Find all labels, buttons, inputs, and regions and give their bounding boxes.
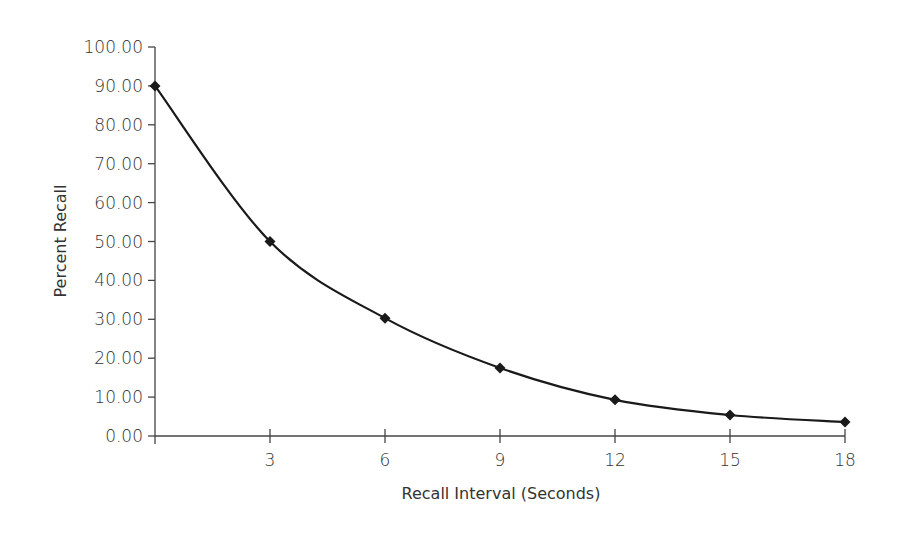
y-tick-label: 100.00 [84, 37, 143, 57]
y-tick-label: 10.00 [94, 387, 143, 407]
x-tick-label: 9 [495, 450, 506, 470]
y-tick-label: 90.00 [94, 76, 143, 96]
x-tick-label: 15 [719, 450, 741, 470]
x-tick-label: 18 [834, 450, 856, 470]
diamond-marker [840, 416, 851, 427]
y-tick-label: 20.00 [94, 348, 143, 368]
x-axis: 369121518 [155, 429, 856, 470]
y-tick-label: 80.00 [94, 115, 143, 135]
y-axis: 0.0010.0020.0030.0040.0050.0060.0070.008… [84, 37, 155, 446]
x-tick-label: 3 [265, 450, 276, 470]
y-tick-label: 60.00 [94, 193, 143, 213]
recall-chart: 0.0010.0020.0030.0040.0050.0060.0070.008… [0, 0, 902, 539]
x-axis-title: Recall Interval (Seconds) [402, 484, 601, 503]
diamond-marker [380, 313, 391, 324]
y-tick-label: 30.00 [94, 309, 143, 329]
x-tick-label: 12 [604, 450, 626, 470]
diamond-marker [495, 362, 506, 373]
y-tick-label: 0.00 [105, 426, 143, 446]
x-tick-label: 6 [380, 450, 391, 470]
data-markers [150, 80, 851, 427]
y-axis-title: Percent Recall [51, 184, 70, 297]
y-tick-label: 40.00 [94, 270, 143, 290]
diamond-marker [725, 409, 736, 420]
y-tick-label: 50.00 [94, 232, 143, 252]
y-tick-label: 70.00 [94, 154, 143, 174]
diamond-marker [610, 394, 621, 405]
